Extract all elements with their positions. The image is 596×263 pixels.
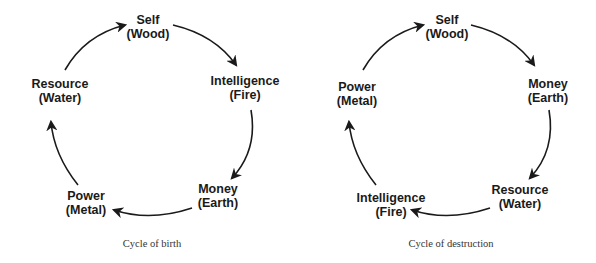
arrow-self-to-intelligence [173,25,236,65]
node-role: Money [198,182,238,196]
node-power: Power (Metal) [66,189,106,217]
cycle-of-destruction-diagram: Self (Wood) Money (Earth) Resource (Wate… [298,0,596,263]
diagram-caption: Cycle of birth [123,238,181,249]
node-intelligence: Intelligence (Fire) [357,191,426,219]
node-element: (Metal) [66,203,106,217]
diagram-caption: Cycle of destruction [408,238,493,249]
arrow-money-to-resource [530,110,550,178]
arrow-resource-to-self [65,25,125,70]
arrow-power-to-resource [51,122,78,185]
node-element: (Earth) [198,196,238,210]
node-element: (Fire) [357,205,426,219]
node-role: Intelligence [357,191,426,205]
node-role: Self [127,13,170,27]
node-resource: Resource (Water) [492,183,549,211]
node-element: (Wood) [426,27,469,41]
node-self: Self (Wood) [426,13,469,41]
node-money: Money (Earth) [198,182,238,210]
arrow-power-to-self [363,25,423,70]
node-role: Power [66,189,106,203]
node-role: Self [426,13,469,27]
node-role: Resource [492,183,549,197]
arrow-intelligence-to-power [349,122,376,185]
node-element: (Wood) [127,27,170,41]
node-role: Intelligence [211,74,280,88]
node-element: (Water) [492,197,549,211]
node-role: Power [337,80,377,94]
node-element: (Earth) [528,91,568,105]
node-element: (Metal) [337,94,377,108]
node-intelligence: Intelligence (Fire) [211,74,280,102]
node-role: Money [528,77,568,91]
node-element: (Fire) [211,88,280,102]
node-self: Self (Wood) [127,13,170,41]
arrow-money-to-power [114,208,192,216]
node-power: Power (Metal) [337,80,377,108]
cycle-of-birth-diagram: Self (Wood) Intelligence (Fire) Money (E… [0,0,298,263]
node-element: (Water) [32,91,89,105]
arrow-intelligence-to-money [232,110,252,178]
arrow-self-to-money [471,25,534,65]
node-resource: Resource (Water) [32,77,89,105]
node-role: Resource [32,77,89,91]
node-money: Money (Earth) [528,77,568,105]
